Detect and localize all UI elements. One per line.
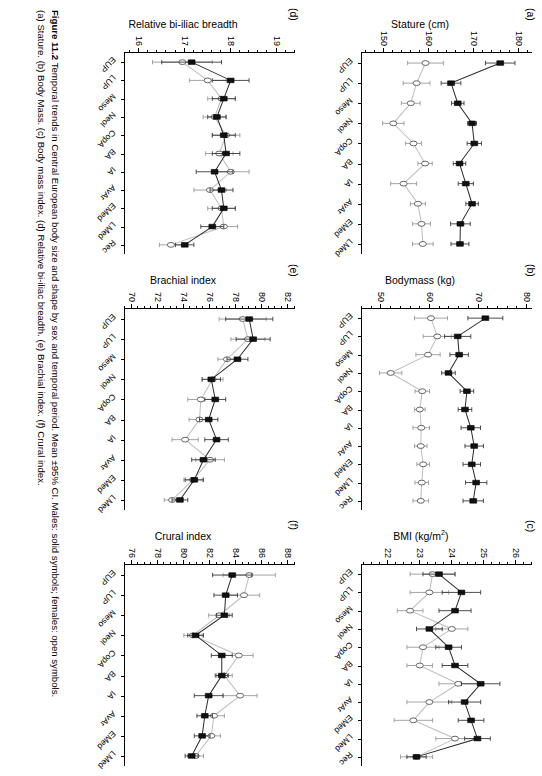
x-tick-label: CopA <box>96 392 118 414</box>
data-point-male <box>471 141 478 146</box>
data-point-female <box>417 444 424 449</box>
data-point-male <box>473 480 480 485</box>
data-point-male <box>234 357 241 362</box>
data-point-male <box>220 96 227 101</box>
x-tick-label: EMed <box>95 201 118 224</box>
x-tick-label: Meso <box>96 608 118 630</box>
x-tick-label: EUP <box>99 55 118 74</box>
x-tick-label: CopA <box>96 128 118 150</box>
data-point-female <box>416 663 423 668</box>
y-tick-label: 72 <box>153 292 163 302</box>
data-point-female <box>240 593 247 598</box>
y-tick-label: 70 <box>127 292 137 302</box>
y-axis-title-b: Bodymass (kg) <box>305 272 536 288</box>
figure-caption: Figure 11.2 Temporal trends in Central E… <box>34 10 62 766</box>
y-tick-label: 78 <box>153 548 163 558</box>
x-tick-label: AvAr <box>335 439 355 459</box>
data-point-female <box>390 121 397 126</box>
caption-label: Figure 11.2 <box>50 10 61 60</box>
x-tick-label: BA <box>340 658 355 673</box>
series-females-e <box>164 317 266 503</box>
data-point-female <box>418 425 425 430</box>
y-tick-label: 23 <box>415 548 425 558</box>
x-tick-label: IA <box>105 689 118 702</box>
data-point-female <box>182 437 189 442</box>
trend-line <box>172 319 248 500</box>
data-point-male <box>467 425 474 430</box>
data-point-male <box>218 653 225 658</box>
x-tick-label: IA <box>105 165 118 178</box>
data-point-male <box>229 573 236 578</box>
y-tick-label: 74 <box>179 292 189 302</box>
plot-wrapper-e: 70727476788082EUPLUPMesoNeolCopABAIAAvAr… <box>124 308 295 510</box>
trend-line <box>451 63 500 244</box>
data-point-male <box>477 681 484 686</box>
x-tick-label: IA <box>342 177 355 190</box>
data-point-male <box>201 713 208 718</box>
data-point-female <box>387 371 394 376</box>
y-tick-label: 18 <box>226 36 236 46</box>
y-axis-title-f: Crural index <box>68 528 299 544</box>
data-point-female <box>417 498 424 503</box>
data-point-male <box>222 593 229 598</box>
plot-area-e: 70727476788082EUPLUPMesoNeolCopABAIAAvAr… <box>124 308 295 510</box>
x-tick-label: EUP <box>336 56 355 75</box>
series-males-a <box>441 61 515 247</box>
data-point-female <box>418 480 425 485</box>
data-point-female <box>426 590 433 595</box>
y-tick-label: 82 <box>283 292 293 302</box>
data-point-female <box>418 221 425 226</box>
y-tick-label: 78 <box>231 292 241 302</box>
series-layer-d <box>125 53 295 254</box>
plot-wrapper-f: 76788082848688EUPLUPMesoNeolCopABAIAAvAr… <box>124 564 295 766</box>
data-point-female <box>416 407 423 412</box>
data-point-male <box>436 572 443 577</box>
data-point-male <box>213 437 220 442</box>
x-tick-label: Meso <box>96 352 118 374</box>
x-tick-label: CopA <box>333 136 355 158</box>
panel-d: (d)Relative bi-iliac breadth16171819EUPL… <box>68 8 299 256</box>
data-point-male <box>469 121 476 126</box>
x-tick-label: EMed <box>332 457 355 480</box>
data-point-female <box>197 397 204 402</box>
x-tick-label: LUP <box>99 73 118 92</box>
y-axis-title-c: BMI (kg/m2) <box>305 528 536 544</box>
data-point-female <box>434 334 441 339</box>
x-tick-label: LMed <box>333 476 355 498</box>
x-tick-label: CopA <box>333 384 355 406</box>
x-tick-label: AvAr <box>335 197 355 217</box>
plot-area-c: 2223242526EUPLUPMesoNeolCopABAIAAvArEMed… <box>361 564 532 766</box>
data-point-male <box>220 133 227 138</box>
plot-wrapper-c: 2223242526EUPLUPMesoNeolCopABAIAAvArEMed… <box>361 564 532 766</box>
y-tick-label: 160 <box>424 31 434 46</box>
data-point-male <box>474 736 481 741</box>
panel-b: (b)Bodymass (kg)50607080EUPLUPMesoNeolCo… <box>305 264 536 512</box>
y-tick-label: 84 <box>231 548 241 558</box>
data-point-female <box>204 78 211 83</box>
data-point-female <box>400 181 407 186</box>
x-tick-label: IA <box>342 421 355 434</box>
x-tick-label: AvAr <box>98 453 118 473</box>
data-point-female <box>427 316 434 321</box>
data-point-male <box>452 608 459 613</box>
x-tick-label: BA <box>340 156 355 171</box>
data-point-male <box>200 457 207 462</box>
y-tick-label: 17 <box>180 36 190 46</box>
y-tick-label: 180 <box>514 31 524 46</box>
data-point-male <box>212 397 219 402</box>
x-tick-label: Neol <box>336 116 355 135</box>
panel-e: (e)Brachial index70727476788082EUPLUPMes… <box>68 264 299 512</box>
data-point-male <box>445 645 452 650</box>
data-point-female <box>410 141 417 146</box>
series-layer-a <box>362 53 532 254</box>
data-point-male <box>482 316 489 321</box>
data-point-male <box>458 590 465 595</box>
x-tick-label: LUP <box>336 76 355 95</box>
series-layer-e <box>125 309 295 510</box>
data-point-female <box>413 81 420 86</box>
data-point-male <box>457 242 464 247</box>
x-tick-label: Neol <box>99 372 118 391</box>
x-tick-label: LUP <box>99 332 118 351</box>
data-point-male <box>470 499 477 504</box>
x-tick-label: LMed <box>96 493 118 515</box>
